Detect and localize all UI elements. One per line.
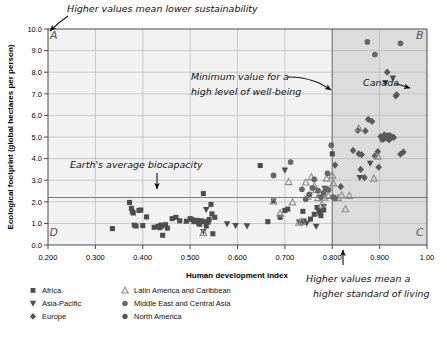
data-point	[328, 142, 334, 148]
x-tick-label: 0.800	[323, 253, 342, 262]
data-point	[208, 202, 213, 207]
data-point	[300, 209, 305, 214]
y-tick-label: 9.0	[32, 46, 42, 55]
x-tick-label: 1.00	[420, 253, 435, 262]
data-point	[207, 217, 212, 222]
data-point	[312, 212, 317, 217]
data-point	[303, 196, 309, 202]
data-point	[138, 207, 143, 212]
data-point	[144, 214, 149, 219]
x-tick-label: 0.600	[228, 253, 247, 262]
data-point	[201, 191, 206, 196]
data-point	[315, 188, 321, 194]
data-point	[330, 151, 335, 156]
data-point	[326, 187, 332, 193]
x-tick-label: 0.200	[39, 253, 58, 262]
legend-label-africa: Africa	[42, 286, 62, 295]
data-point	[165, 226, 170, 231]
data-point	[318, 213, 323, 218]
data-point	[311, 176, 317, 182]
x-axis-title: Human development index	[186, 271, 288, 280]
annotation-top-text: Higher values mean lower sustainability	[67, 3, 258, 14]
data-point	[127, 200, 132, 205]
data-point	[310, 185, 316, 191]
data-point	[140, 223, 145, 228]
data-point	[177, 218, 182, 223]
annotation-bottom-right-line2: higher standard of living	[313, 288, 430, 299]
data-point	[388, 135, 394, 141]
data-point	[285, 207, 290, 212]
y-tick-label: 0.0	[32, 241, 42, 250]
data-point	[210, 231, 215, 236]
y-tick-label: 10.0	[27, 25, 42, 34]
y-tick-label: 2.0	[32, 198, 42, 207]
y-tick-label: 3.0	[32, 176, 42, 185]
data-point	[288, 159, 294, 165]
data-point	[372, 52, 378, 58]
y-tick-label: 6.0	[32, 111, 42, 120]
quadrant-label-d: D	[49, 226, 57, 239]
data-point	[110, 226, 115, 231]
plot-area	[48, 29, 427, 245]
legend-label-europe: Europe	[42, 312, 66, 321]
annotation-canada-text: Canada	[363, 77, 399, 88]
data-point	[160, 233, 165, 238]
x-tick-label: 0.700	[275, 253, 294, 262]
y-tick-label: 4.0	[32, 154, 42, 163]
y-tick-label: 5.0	[32, 133, 42, 142]
legend-label-asia-pacific: Asia-Pacific	[42, 299, 81, 308]
chart-canvas: 0.01.02.03.04.05.06.07.08.09.010.0 0.200…	[0, 0, 447, 342]
legend-label-latin-america-and-caribbean: Latin America and Caribbean	[134, 286, 231, 295]
y-tick-label: 8.0	[32, 68, 42, 77]
data-point	[265, 219, 270, 224]
data-point	[332, 195, 338, 201]
data-point	[299, 186, 305, 192]
data-point	[271, 173, 277, 179]
annotation-minimum-line1: Minimum value for a	[191, 71, 289, 82]
legend-label-middle-east-and-central-asia: Middle East and Central Asia	[134, 299, 231, 308]
x-tick-label: 0.400	[133, 253, 152, 262]
y-tick-label: 7.0	[32, 90, 42, 99]
x-tick-label: 0.900	[370, 253, 389, 262]
data-point	[325, 170, 331, 176]
data-point	[398, 40, 404, 46]
quadrant-label-b: B	[416, 29, 424, 42]
data-point	[131, 211, 136, 216]
annotation-minimum-line2: high level of well-being	[191, 86, 301, 97]
ecological-footprint-scatter-figure: 0.01.02.03.04.05.06.07.08.09.010.0 0.200…	[0, 0, 447, 342]
x-tick-label: 0.300	[86, 253, 105, 262]
data-point	[258, 163, 263, 168]
quadrant-label-c: C	[416, 226, 424, 239]
legend-marker-north-america	[122, 314, 127, 319]
data-point	[134, 223, 139, 228]
data-point	[307, 192, 313, 198]
legend-item-middle-east-and-central-asia[interactable]: Middle East and Central Asia	[122, 299, 231, 308]
annotation-biocapacity-text: Earth's average biocapacity	[70, 159, 203, 170]
y-tick-label: 1.0	[32, 219, 42, 228]
data-point	[278, 215, 283, 220]
data-point	[212, 215, 217, 220]
legend-label-north-america: North America	[134, 312, 182, 321]
legend-marker-africa	[31, 288, 36, 293]
data-point	[364, 39, 370, 45]
legend-marker-middle-east-and-central-asia	[122, 301, 127, 306]
annotation-bottom-right-line1: Higher values mean a	[306, 273, 410, 284]
legend-item-latin-america-and-caribbean[interactable]: Latin America and Caribbean	[122, 286, 231, 295]
y-axis-title: Ecological footprint (global hectares pe…	[6, 44, 15, 229]
x-tick-label: 0.500	[181, 253, 200, 262]
